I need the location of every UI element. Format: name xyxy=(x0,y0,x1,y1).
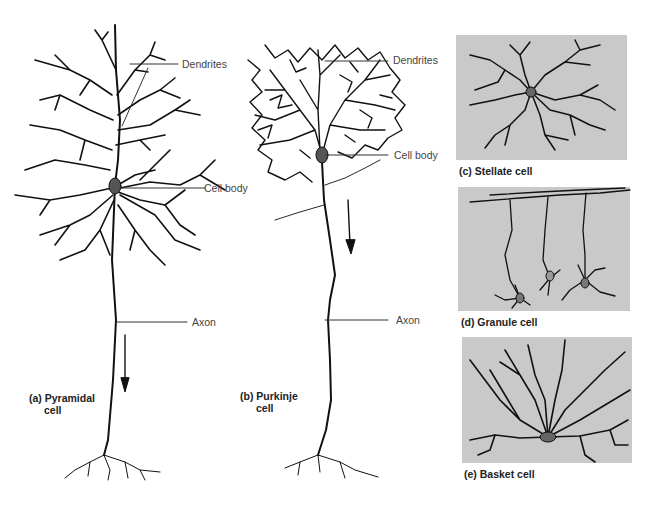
purkinje-axon-label: Axon xyxy=(396,314,420,326)
purkinje-caption-line2: cell xyxy=(240,402,298,414)
basket-caption: (e) Basket cell xyxy=(464,468,535,480)
pyramidal-axon-label: Axon xyxy=(192,316,216,328)
pyramidal-caption-line2: cell xyxy=(29,404,95,416)
purkinje-caption: (b) Purkinje cell xyxy=(240,390,298,414)
pyramidal-caption-line1: (a) Pyramidal xyxy=(29,392,95,404)
granule-cell xyxy=(470,188,630,308)
purkinje-caption-line1: (b) Purkinje xyxy=(240,390,298,402)
pyramidal-dendrites-label: Dendrites xyxy=(182,58,227,70)
stellate-cell xyxy=(470,40,615,150)
basket-cell xyxy=(470,340,630,462)
purkinje-dendrites-label: Dendrites xyxy=(393,54,438,66)
stellate-caption: (c) Stellate cell xyxy=(459,165,533,177)
pyramidal-caption: (a) Pyramidal cell xyxy=(29,392,95,416)
granule-caption: (d) Granule cell xyxy=(461,316,537,328)
neuron-drawings xyxy=(0,0,665,517)
purkinje-cell-body-label: Cell body xyxy=(394,149,438,161)
pyramidal-cell-body-label: Cell body xyxy=(204,182,248,194)
